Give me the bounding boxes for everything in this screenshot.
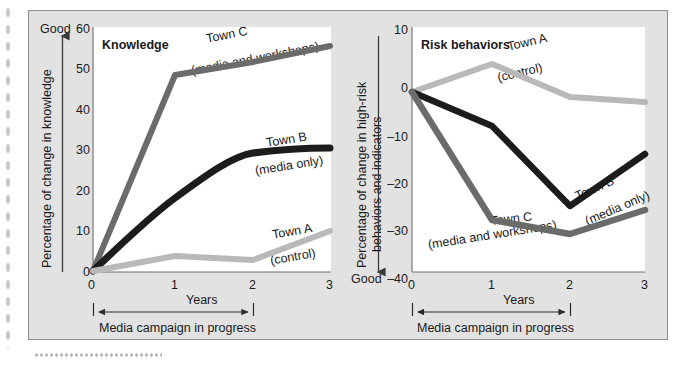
risk-ytick-minus40: –40: [382, 272, 408, 286]
knowledge-xtick-0: 0: [88, 278, 95, 292]
risk-ytick-0: 0: [382, 81, 408, 95]
knowledge-panel-title: Knowledge: [102, 38, 169, 52]
knowledge-ytick-20: 20: [70, 184, 90, 198]
knowledge-ytick-50: 50: [70, 62, 90, 76]
risk-xtick-1: 1: [488, 278, 495, 292]
risk-y-axis-label-line1: Percentage of change in high-risk: [355, 82, 369, 268]
knowledge-ytick-40: 40: [70, 103, 90, 117]
knowledge-campaign-note: Media campaign in progress: [99, 321, 256, 335]
knowledge-x-axis-label: Years: [186, 293, 218, 307]
knowledge-xtick-3: 3: [326, 278, 333, 292]
risk-good-label: Good: [351, 272, 382, 286]
risk-panel-title: Risk behaviors: [421, 38, 510, 52]
risk-xtick-0: 0: [408, 278, 415, 292]
knowledge-ytick-0: 0: [70, 265, 90, 279]
knowledge-xtick-1: 1: [171, 278, 178, 292]
knowledge-good-label: Good: [40, 22, 71, 36]
page-bottom-dots-decoration: [34, 352, 162, 358]
knowledge-ytick-10: 10: [70, 224, 90, 238]
risk-campaign-note: Media campaign in progress: [417, 321, 574, 335]
risk-ytick-10: 10: [382, 23, 408, 37]
risk-x-axis-label: Years: [503, 293, 535, 307]
knowledge-y-axis-label: Percentage of change in knowledge: [40, 69, 54, 268]
figure-root: Knowledge Good Percentage of change in k…: [0, 0, 679, 369]
knowledge-ytick-30: 30: [70, 143, 90, 157]
knowledge-xtick-2: 2: [249, 278, 256, 292]
risk-xtick-2: 2: [566, 278, 573, 292]
risk-ytick-minus10: –10: [382, 130, 408, 144]
risk-ytick-minus20: –20: [382, 177, 408, 191]
risk-xtick-3: 3: [641, 278, 648, 292]
knowledge-ytick-60: 60: [70, 22, 90, 36]
risk-ytick-minus30: –30: [382, 224, 408, 238]
page-edge-dots-decoration: [4, 4, 12, 349]
